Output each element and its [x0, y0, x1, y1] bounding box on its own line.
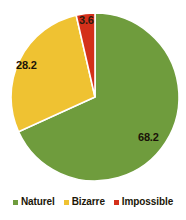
legend-item-naturel[interactable]: Naturel — [13, 196, 55, 208]
legend-label-impossible: Impossible — [122, 196, 173, 208]
chart-legend: Naturel Bizarre Impossible — [0, 196, 186, 208]
pie-chart-svg — [0, 0, 186, 192]
pie-value-label-naturel: 68.2 — [138, 131, 159, 143]
legend-label-naturel: Naturel — [21, 196, 55, 208]
pie-chart-figure: 68.2 28.2 3.6 Naturel Bizarre Impossible — [0, 0, 186, 220]
legend-item-bizarre[interactable]: Bizarre — [64, 196, 105, 208]
chart-plot-area: 68.2 28.2 3.6 — [0, 0, 186, 192]
pie-value-label-bizarre: 28.2 — [16, 59, 37, 71]
pie-value-label-impossible: 3.6 — [79, 14, 94, 26]
legend-swatch-green-icon — [13, 200, 18, 205]
legend-item-impossible[interactable]: Impossible — [114, 196, 173, 208]
legend-swatch-yellow-icon — [64, 200, 69, 205]
legend-swatch-red-icon — [114, 200, 119, 205]
legend-label-bizarre: Bizarre — [72, 196, 105, 208]
